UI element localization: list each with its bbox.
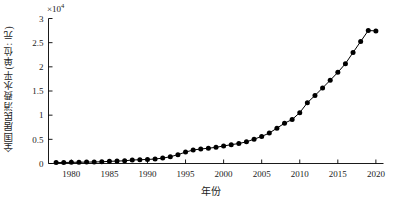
data-point [168, 154, 173, 159]
data-point [252, 137, 257, 142]
x-tick-label: 2010 [291, 169, 310, 179]
chart-figure: 全国居民消费水平(单位: 元) ×104 00.511.522.53 19801… [0, 0, 394, 209]
data-point [198, 146, 203, 151]
data-series-line [56, 31, 376, 163]
data-point [320, 85, 325, 90]
data-point [358, 39, 363, 44]
data-point [76, 160, 81, 165]
data-point [145, 157, 150, 162]
y-tick-label: 1.5 [32, 86, 44, 96]
x-tick-label-group: 198019851990199520002005201020152020 [62, 169, 385, 179]
x-tick-label: 1985 [100, 169, 119, 179]
data-point [259, 134, 264, 139]
x-tick-label: 2000 [215, 169, 234, 179]
x-tick-label: 1990 [138, 169, 157, 179]
y-tick-label: 3 [39, 14, 44, 24]
data-series-markers [54, 28, 379, 165]
data-point [69, 160, 74, 165]
data-point [206, 146, 211, 151]
y-tick-label: 0 [39, 159, 44, 169]
plot-area: 00.511.522.53 19801985199019952000200520… [0, 0, 394, 209]
data-point [214, 145, 219, 150]
y-tick-label: 0.5 [32, 135, 44, 145]
data-point [221, 143, 226, 148]
data-point [191, 148, 196, 153]
data-point [305, 100, 310, 105]
x-tick-label: 2005 [253, 169, 272, 179]
data-point [160, 156, 165, 161]
data-point [335, 70, 340, 75]
data-point [267, 131, 272, 136]
data-point [351, 50, 356, 55]
y-tick-label-group: 00.511.522.53 [32, 14, 44, 169]
y-tick-mark-group [49, 19, 53, 164]
data-point [61, 160, 66, 165]
data-point [236, 141, 241, 146]
data-point [328, 78, 333, 83]
data-point [137, 157, 142, 162]
data-point [312, 93, 317, 98]
x-tick-label: 2015 [329, 169, 348, 179]
data-point [343, 61, 348, 66]
data-point [290, 117, 295, 122]
data-point [229, 142, 234, 147]
x-tick-label: 1995 [177, 169, 196, 179]
x-axis-label-text: 年份 [201, 186, 221, 197]
data-point [122, 158, 127, 163]
data-point [274, 126, 279, 131]
data-point [115, 159, 120, 164]
y-tick-label: 1 [39, 110, 44, 120]
data-point [297, 110, 302, 115]
data-point [282, 121, 287, 126]
x-tick-label: 1980 [62, 169, 81, 179]
data-point [107, 159, 112, 164]
x-axis-label: 年份 [0, 183, 394, 198]
data-point [183, 150, 188, 155]
x-tick-label: 2020 [367, 169, 386, 179]
y-tick-label: 2.5 [32, 38, 44, 48]
data-point [244, 139, 249, 144]
data-point [366, 28, 371, 33]
data-point [84, 160, 89, 165]
data-point [130, 158, 135, 163]
data-point [54, 160, 59, 165]
data-point [175, 152, 180, 157]
data-point [99, 159, 104, 164]
data-point [373, 28, 378, 33]
data-point [153, 157, 158, 162]
data-point [92, 159, 97, 164]
y-tick-label: 2 [39, 62, 44, 72]
